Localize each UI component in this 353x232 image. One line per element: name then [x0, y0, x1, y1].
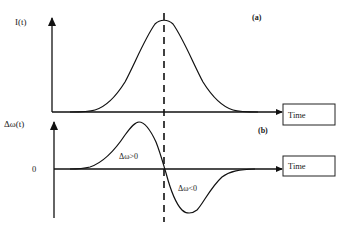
- y-label-a: I(t): [15, 17, 27, 27]
- frequency-shift-curve: [70, 122, 255, 213]
- panel-tag-b: (b): [258, 126, 268, 135]
- zero-label: 0: [32, 164, 36, 174]
- x-label-a: Time: [288, 110, 306, 120]
- panel-b: Δω(t) 0 (b) Δω>0 Δω<0 Time: [4, 119, 335, 218]
- negative-region-label: Δω<0: [178, 184, 197, 193]
- x-label-b: Time: [288, 161, 306, 171]
- panel-a: I(t) (a) Time: [15, 13, 335, 125]
- y-label-b: Δω(t): [4, 119, 24, 129]
- panel-tag-a: (a): [252, 13, 262, 22]
- diagram-canvas: I(t) (a) Time Δω(t) 0 (b) Δω>0 Δω<0 Time: [0, 0, 353, 232]
- positive-region-label: Δω>0: [119, 152, 138, 161]
